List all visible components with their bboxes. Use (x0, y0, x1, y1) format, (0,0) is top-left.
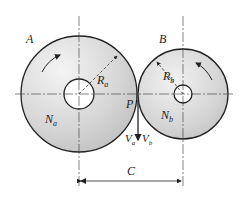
label-velocity-b: Vb (142, 132, 153, 147)
friction-wheel-diagram: A B Ra Rb Na Nb P Va Vb C (0, 0, 243, 203)
label-velocity-a: Va (125, 132, 136, 147)
dimension-c (80, 178, 181, 184)
label-contact-point: P (125, 97, 134, 111)
label-wheel-b: B (159, 32, 167, 46)
label-wheel-a: A (25, 32, 34, 46)
label-center-distance: C (127, 164, 136, 178)
